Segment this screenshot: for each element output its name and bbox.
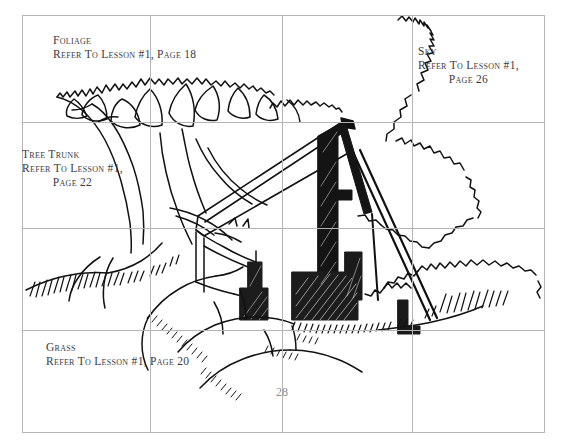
annotation-sky: Sky Refer To Lesson #1, Page 26 (418, 44, 519, 86)
page-number: 28 (0, 385, 564, 400)
annotation-tree-trunk: Tree Trunk Refer To Lesson #1, Page 22 (22, 147, 123, 189)
annotation-tree-trunk-line-1: Refer To Lesson #1, (22, 161, 123, 175)
annotation-sky-line-1: Refer To Lesson #1, (418, 58, 519, 72)
annotation-tree-trunk-title: Tree Trunk (22, 147, 123, 161)
annotation-sky-line-2: Page 26 (418, 72, 519, 86)
annotation-grass-line-1: Refer To Lesson #1, Page 20 (46, 354, 189, 368)
annotation-grass: Grass Refer To Lesson #1, Page 20 (46, 340, 189, 368)
annotation-foliage: Foliage Refer To Lesson #1, Page 18 (53, 33, 196, 61)
lesson-page: Foliage Refer To Lesson #1, Page 18 Tree… (0, 0, 564, 446)
annotation-foliage-title: Foliage (53, 33, 196, 47)
annotation-sky-title: Sky (418, 44, 519, 58)
annotation-grass-title: Grass (46, 340, 189, 354)
annotation-tree-trunk-line-2: Page 22 (22, 175, 123, 189)
annotation-foliage-line-1: Refer To Lesson #1, Page 18 (53, 47, 196, 61)
